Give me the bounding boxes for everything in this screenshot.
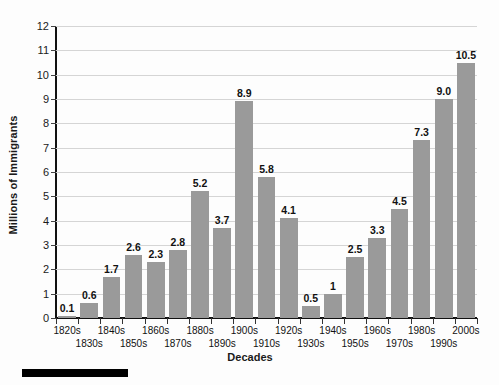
- y-tick-label: 8: [43, 117, 49, 129]
- y-tick-label: 10: [37, 69, 49, 81]
- x-tick-label: 1860s: [142, 325, 169, 336]
- bar: [103, 277, 121, 318]
- x-tick-label: 1900s: [231, 325, 258, 336]
- x-tick-mark: [189, 318, 190, 324]
- x-tick-mark: [322, 318, 323, 324]
- x-tick-mark: [366, 318, 367, 324]
- y-tick-label: 9: [43, 93, 49, 105]
- bar-value-label: 5.8: [259, 163, 274, 175]
- scale-bar: [22, 369, 128, 377]
- bar-value-label: 3.7: [215, 214, 230, 226]
- y-tick-mark: [51, 148, 56, 149]
- x-tick-mark: [411, 318, 412, 324]
- x-tick-label: 1930s: [297, 338, 324, 349]
- x-tick-mark: [233, 318, 234, 324]
- x-tick-mark: [145, 318, 146, 324]
- bar: [191, 191, 209, 318]
- x-tick-mark: [477, 318, 478, 324]
- bar-value-label: 8.9: [237, 87, 252, 99]
- bar: [435, 99, 453, 318]
- bar-value-label: 0.5: [304, 292, 319, 304]
- y-tick-mark: [51, 99, 56, 100]
- gridlines-and-bars: 01234567891011120.10.61.72.62.32.85.23.7…: [56, 26, 477, 318]
- bar-value-label: 4.1: [281, 204, 296, 216]
- y-tick-mark: [51, 221, 56, 222]
- y-tick-label: 2: [43, 263, 49, 275]
- gridline: [56, 26, 477, 27]
- bar: [58, 316, 76, 318]
- x-tick-mark: [255, 318, 256, 324]
- bar-value-label: 2.5: [348, 243, 363, 255]
- bar-value-label: 1.7: [104, 263, 119, 275]
- bar: [80, 303, 98, 318]
- y-tick-label: 5: [43, 190, 49, 202]
- x-axis-title: Decades: [227, 351, 272, 363]
- y-tick-mark: [51, 294, 56, 295]
- bar-value-label: 2.6: [126, 241, 141, 253]
- x-tick-label: 1990s: [430, 338, 457, 349]
- gridline: [56, 123, 477, 124]
- gridline: [56, 75, 477, 76]
- y-tick-mark: [51, 123, 56, 124]
- x-tick-label: 2000s: [452, 325, 479, 336]
- bar-value-label: 7.3: [414, 126, 429, 138]
- y-tick-label: 11: [38, 44, 49, 56]
- bar-value-label: 0.6: [82, 289, 97, 301]
- x-tick-label: 1910s: [253, 338, 280, 349]
- bar: [368, 238, 386, 318]
- bar: [213, 228, 231, 318]
- plot-area: 01234567891011120.10.61.72.62.32.85.23.7…: [56, 26, 477, 318]
- x-tick-label: 1940s: [319, 325, 346, 336]
- x-tick-mark: [278, 318, 279, 324]
- x-tick-mark: [56, 318, 57, 324]
- y-tick-mark: [51, 172, 56, 173]
- y-tick-label: 12: [37, 20, 49, 32]
- y-tick-mark: [51, 75, 56, 76]
- y-tick-mark: [51, 196, 56, 197]
- x-tick-mark: [167, 318, 168, 324]
- gridline: [56, 99, 477, 100]
- x-tick-label: 1970s: [386, 338, 413, 349]
- y-tick-mark: [51, 50, 56, 51]
- y-tick-mark: [51, 269, 56, 270]
- bar-value-label: 9.0: [436, 85, 451, 97]
- bar-value-label: 5.2: [193, 177, 208, 189]
- bar-value-label: 4.5: [392, 195, 407, 207]
- x-tick-mark: [344, 318, 345, 324]
- bar: [169, 250, 187, 318]
- x-tick-mark: [78, 318, 79, 324]
- y-axis-title: Millions of Immigrants: [7, 116, 19, 235]
- bar: [457, 63, 475, 319]
- bar: [235, 101, 253, 318]
- y-tick-label: 1: [43, 288, 49, 300]
- y-tick-label: 3: [43, 239, 49, 251]
- bar-value-label: 3.3: [370, 224, 385, 236]
- bar-value-label: 2.8: [171, 236, 186, 248]
- bar: [258, 177, 276, 318]
- x-tick-mark: [122, 318, 123, 324]
- bar: [302, 306, 320, 318]
- x-tick-label: 1880s: [186, 325, 213, 336]
- y-tick-label: 6: [43, 166, 49, 178]
- x-tick-label: 1920s: [275, 325, 302, 336]
- x-tick-label: 1820s: [53, 325, 80, 336]
- bar: [413, 140, 431, 318]
- bar: [125, 255, 143, 318]
- x-tick-mark: [388, 318, 389, 324]
- x-tick-label: 1980s: [408, 325, 435, 336]
- x-tick-mark: [100, 318, 101, 324]
- x-tick-mark: [300, 318, 301, 324]
- x-tick-mark: [433, 318, 434, 324]
- y-tick-mark: [51, 245, 56, 246]
- bar-value-label: 2.3: [148, 248, 163, 260]
- chart-screenshot: Millions of Immigrants 01234567891011120…: [0, 0, 499, 385]
- x-tick-label: 1830s: [76, 338, 103, 349]
- bar: [346, 257, 364, 318]
- x-tick-mark: [455, 318, 456, 324]
- x-tick-label: 1840s: [98, 325, 125, 336]
- bar: [391, 209, 409, 319]
- bar-value-label: 0.1: [60, 302, 75, 314]
- bar: [324, 294, 342, 318]
- gridline: [56, 50, 477, 51]
- x-tick-label: 1870s: [164, 338, 191, 349]
